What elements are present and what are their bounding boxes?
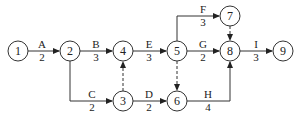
- node-3-label: 3: [120, 94, 126, 108]
- node-2: 2: [60, 41, 80, 61]
- activity-h-name: H: [204, 88, 212, 100]
- node-7-label: 7: [227, 9, 233, 23]
- node-6: 6: [167, 91, 187, 111]
- node-9: 9: [273, 41, 293, 61]
- activity-c-name: C: [88, 88, 95, 100]
- node-1: 1: [8, 41, 28, 61]
- node-5: 5: [167, 41, 187, 61]
- node-7: 7: [220, 6, 240, 26]
- node-8-label: 8: [227, 44, 233, 58]
- node-1-label: 1: [15, 44, 21, 58]
- edge-f: [177, 16, 219, 41]
- activity-i-duration: 3: [253, 51, 259, 63]
- activity-a-duration: 2: [39, 51, 45, 63]
- activity-g-duration: 2: [200, 51, 206, 63]
- node-8: 8: [220, 41, 240, 61]
- node-9-label: 9: [280, 44, 286, 58]
- node-2-label: 2: [67, 44, 73, 58]
- activity-f-duration: 3: [200, 16, 206, 28]
- activity-c-duration: 2: [89, 101, 95, 113]
- activity-h-duration: 4: [205, 101, 211, 113]
- activity-g-name: G: [199, 38, 207, 50]
- node-4: 4: [113, 41, 133, 61]
- activity-d-duration: 2: [146, 101, 152, 113]
- activity-e-duration: 3: [146, 51, 152, 63]
- activity-d-name: D: [145, 88, 153, 100]
- network-diagram: A 2 B 3 C 2 D 2 E 3 F 3 G 2 H 4 I 3 1 2 …: [0, 0, 297, 118]
- node-4-label: 4: [120, 44, 126, 58]
- activity-f-name: F: [200, 3, 206, 15]
- node-3: 3: [113, 91, 133, 111]
- activity-b-name: B: [92, 38, 99, 50]
- activity-e-name: E: [146, 38, 153, 50]
- node-5-label: 5: [174, 44, 180, 58]
- activity-i-name: I: [254, 38, 258, 50]
- activity-b-duration: 3: [93, 51, 99, 63]
- node-6-label: 6: [174, 94, 180, 108]
- activity-a-name: A: [38, 38, 46, 50]
